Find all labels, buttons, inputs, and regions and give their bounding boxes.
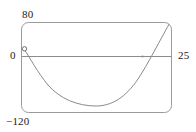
chart-figure: 80 0 25 −120	[0, 0, 196, 132]
data-curve-group	[24, 19, 172, 106]
y-max-label: 80	[22, 9, 33, 20]
open-endpoint-marker	[22, 47, 26, 51]
curve-parabola	[24, 19, 172, 106]
plot-frame	[22, 23, 172, 113]
x-intercept-marker	[141, 55, 143, 57]
y-zero-label: 0	[10, 50, 16, 61]
x-max-label: 25	[178, 50, 189, 61]
y-min-label: −120	[6, 116, 30, 127]
